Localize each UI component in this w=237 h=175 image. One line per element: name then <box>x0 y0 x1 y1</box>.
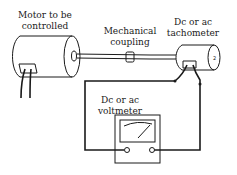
motor-label-line1: Motor to be <box>18 10 72 20</box>
motor <box>13 36 81 98</box>
tachometer: 2 <box>176 45 220 70</box>
svg-text:2: 2 <box>213 55 216 61</box>
motor-tachometer-diagram: Motor to be controlled Mechanical coupli… <box>0 0 237 175</box>
motor-label-line2: controlled <box>22 21 69 31</box>
tachometer-label-line2: tachometer <box>167 28 220 38</box>
voltmeter-terminal-right <box>150 148 155 153</box>
coupling-label-line2: coupling <box>110 37 150 47</box>
tachometer-label-line1: Dc or ac <box>174 17 212 27</box>
coupling-label-line1: Mechanical <box>104 26 157 36</box>
voltmeter-terminal-left <box>125 148 130 153</box>
mechanical-coupling <box>126 52 134 62</box>
voltmeter-label-line1: Dc or ac <box>101 95 139 105</box>
shaft <box>77 52 176 62</box>
voltmeter <box>115 115 160 163</box>
